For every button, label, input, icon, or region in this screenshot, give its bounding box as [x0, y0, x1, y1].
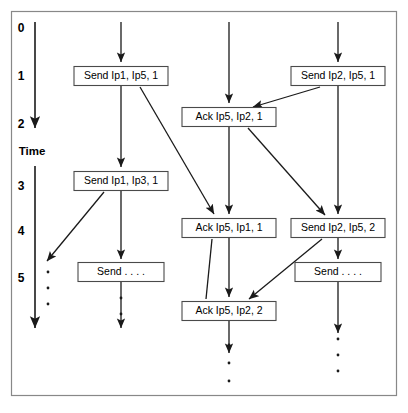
ellipsis-left-dot-3	[47, 303, 50, 306]
time-tick-2: 2	[18, 117, 25, 131]
time-tick-3: 3	[18, 179, 25, 193]
event-send-ellipsis-right[interactable]: Send . . . .	[295, 263, 381, 282]
event-label: Ack Ip5, Ip1, 1	[195, 221, 262, 233]
diagram-canvas: 0 1 2 Time 3 4 5 Send Ip1, Ip5, 1 Send I…	[0, 0, 408, 413]
event-send-ip2-ip5-1[interactable]: Send Ip2, Ip5, 1	[291, 67, 385, 86]
event-label: Send Ip1, Ip3, 1	[84, 174, 158, 186]
event-ack-ip5-ip1-1[interactable]: Ack Ip5, Ip1, 1	[182, 219, 276, 238]
ellipsis-right-dot-3	[337, 370, 340, 373]
event-label: Send . . . .	[314, 265, 362, 277]
event-label: Ack Ip5, Ip2, 1	[195, 110, 262, 122]
event-send-ip1-ip3-1[interactable]: Send Ip1, Ip3, 1	[74, 172, 168, 191]
time-tick-0: 0	[18, 21, 25, 35]
event-label: Send Ip1, Ip5, 1	[84, 69, 158, 81]
event-label: Send . . . .	[97, 265, 145, 277]
ellipsis-center-dot-3	[228, 380, 231, 383]
event-ack-ip5-ip2-1[interactable]: Ack Ip5, Ip2, 1	[182, 108, 276, 127]
event-label: Send Ip2, Ip5, 2	[301, 221, 375, 233]
ellipsis-center-dot-2	[228, 362, 231, 365]
time-tick-4: 4	[18, 224, 25, 238]
time-axis-label: Time	[19, 145, 46, 157]
event-send-ip1-ip5-1[interactable]: Send Ip1, Ip5, 1	[74, 67, 168, 86]
event-label: Send Ip2, Ip5, 1	[301, 69, 375, 81]
ellipsis-right-dot-1	[337, 338, 340, 341]
timeline-diagram-figure: 0 1 2 Time 3 4 5 Send Ip1, Ip5, 1 Send I…	[0, 0, 408, 413]
ellipsis-left-dot-2	[47, 287, 50, 290]
event-send-ip2-ip5-2[interactable]: Send Ip2, Ip5, 2	[291, 219, 385, 238]
ellipsis-center-dot-1	[228, 344, 231, 347]
ellipsis-lifeline2-dot-1	[120, 297, 123, 300]
event-send-ellipsis-left[interactable]: Send . . . .	[78, 263, 164, 282]
event-label: Ack Ip5, Ip2, 2	[195, 304, 262, 316]
time-tick-5: 5	[18, 271, 25, 285]
event-ack-ip5-ip2-2[interactable]: Ack Ip5, Ip2, 2	[182, 302, 276, 321]
ellipsis-left-dot-1	[47, 271, 50, 274]
ellipsis-right-dot-2	[337, 354, 340, 357]
ellipsis-lifeline2-dot-2	[120, 313, 123, 316]
time-tick-1: 1	[18, 69, 25, 83]
